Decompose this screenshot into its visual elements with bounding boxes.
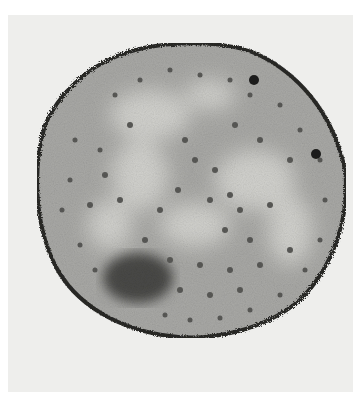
cell-micrograph <box>0 0 360 398</box>
dense-body <box>103 253 173 303</box>
cell-body <box>37 43 346 337</box>
inclusion-right <box>311 149 321 159</box>
inclusion-top <box>249 75 259 85</box>
